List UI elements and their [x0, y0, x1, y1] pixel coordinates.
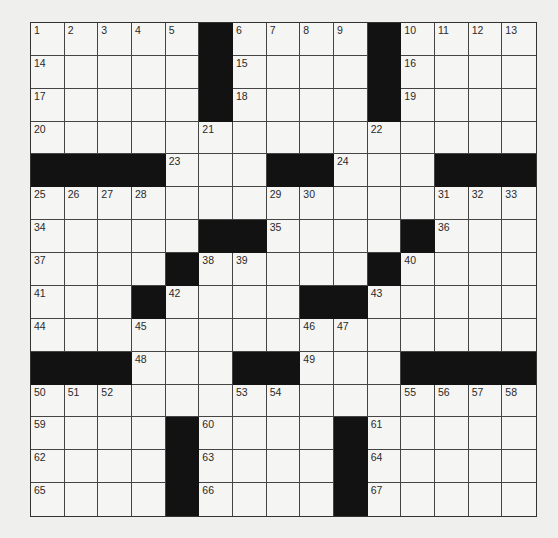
- grid-cell-r12c11[interactable]: [401, 417, 435, 450]
- grid-cell-r9c12[interactable]: [435, 319, 469, 352]
- grid-cell-r7c12[interactable]: [435, 253, 469, 286]
- grid-cell-r7c7[interactable]: [267, 253, 301, 286]
- grid-cell-r8c4[interactable]: 42: [166, 286, 200, 319]
- grid-cell-r14c2[interactable]: [98, 483, 132, 516]
- grid-cell-r6c3[interactable]: [132, 220, 166, 253]
- grid-cell-r0c7[interactable]: 7: [267, 23, 301, 56]
- grid-cell-r9c4[interactable]: [166, 319, 200, 352]
- grid-cell-r5c5[interactable]: [199, 187, 233, 220]
- grid-cell-r1c7[interactable]: [267, 56, 301, 89]
- grid-cell-r1c6[interactable]: 15: [233, 56, 267, 89]
- grid-cell-r13c1[interactable]: [65, 450, 99, 483]
- grid-cell-r1c4[interactable]: [166, 56, 200, 89]
- grid-cell-r13c7[interactable]: [267, 450, 301, 483]
- grid-cell-r0c6[interactable]: 6: [233, 23, 267, 56]
- grid-cell-r13c2[interactable]: [98, 450, 132, 483]
- grid-cell-r1c11[interactable]: 16: [401, 56, 435, 89]
- grid-cell-r7c0[interactable]: 37: [31, 253, 65, 286]
- grid-cell-r14c1[interactable]: [65, 483, 99, 516]
- grid-cell-r14c5[interactable]: 66: [199, 483, 233, 516]
- grid-cell-r13c13[interactable]: [469, 450, 503, 483]
- grid-cell-r12c12[interactable]: [435, 417, 469, 450]
- grid-cell-r3c12[interactable]: [435, 122, 469, 155]
- grid-cell-r13c12[interactable]: [435, 450, 469, 483]
- grid-cell-r6c7[interactable]: 35: [267, 220, 301, 253]
- grid-cell-r0c1[interactable]: 2: [65, 23, 99, 56]
- grid-cell-r13c3[interactable]: [132, 450, 166, 483]
- grid-cell-r1c2[interactable]: [98, 56, 132, 89]
- grid-cell-r9c8[interactable]: 46: [300, 319, 334, 352]
- grid-cell-r1c13[interactable]: [469, 56, 503, 89]
- grid-cell-r9c7[interactable]: [267, 319, 301, 352]
- grid-cell-r12c0[interactable]: 59: [31, 417, 65, 450]
- grid-cell-r0c4[interactable]: 5: [166, 23, 200, 56]
- grid-cell-r14c8[interactable]: [300, 483, 334, 516]
- grid-cell-r7c9[interactable]: [334, 253, 368, 286]
- grid-cell-r14c7[interactable]: [267, 483, 301, 516]
- grid-cell-r0c12[interactable]: 11: [435, 23, 469, 56]
- grid-cell-r10c3[interactable]: 48: [132, 352, 166, 385]
- grid-cell-r3c10[interactable]: 22: [368, 122, 402, 155]
- grid-cell-r6c1[interactable]: [65, 220, 99, 253]
- grid-cell-r14c0[interactable]: 65: [31, 483, 65, 516]
- grid-cell-r0c2[interactable]: 3: [98, 23, 132, 56]
- grid-cell-r0c3[interactable]: 4: [132, 23, 166, 56]
- grid-cell-r2c14[interactable]: [502, 89, 536, 122]
- grid-cell-r2c8[interactable]: [300, 89, 334, 122]
- grid-cell-r11c14[interactable]: 58: [502, 385, 536, 418]
- grid-cell-r5c14[interactable]: 33: [502, 187, 536, 220]
- grid-cell-r7c13[interactable]: [469, 253, 503, 286]
- grid-cell-r14c3[interactable]: [132, 483, 166, 516]
- grid-cell-r12c7[interactable]: [267, 417, 301, 450]
- grid-cell-r8c11[interactable]: [401, 286, 435, 319]
- grid-cell-r11c11[interactable]: 55: [401, 385, 435, 418]
- grid-cell-r1c14[interactable]: [502, 56, 536, 89]
- grid-cell-r13c11[interactable]: [401, 450, 435, 483]
- grid-cell-r12c10[interactable]: 61: [368, 417, 402, 450]
- grid-cell-r1c8[interactable]: [300, 56, 334, 89]
- grid-cell-r11c10[interactable]: [368, 385, 402, 418]
- grid-cell-r5c6[interactable]: [233, 187, 267, 220]
- grid-cell-r6c0[interactable]: 34: [31, 220, 65, 253]
- grid-cell-r5c8[interactable]: 30: [300, 187, 334, 220]
- grid-cell-r7c6[interactable]: 39: [233, 253, 267, 286]
- grid-cell-r11c13[interactable]: 57: [469, 385, 503, 418]
- grid-cell-r11c4[interactable]: [166, 385, 200, 418]
- grid-cell-r10c4[interactable]: [166, 352, 200, 385]
- grid-cell-r2c3[interactable]: [132, 89, 166, 122]
- grid-cell-r14c6[interactable]: [233, 483, 267, 516]
- grid-cell-r4c4[interactable]: 23: [166, 154, 200, 187]
- grid-cell-r0c11[interactable]: 10: [401, 23, 435, 56]
- grid-cell-r10c5[interactable]: [199, 352, 233, 385]
- grid-cell-r8c10[interactable]: 43: [368, 286, 402, 319]
- grid-cell-r3c5[interactable]: 21: [199, 122, 233, 155]
- grid-cell-r8c0[interactable]: 41: [31, 286, 65, 319]
- grid-cell-r3c3[interactable]: [132, 122, 166, 155]
- grid-cell-r2c2[interactable]: [98, 89, 132, 122]
- grid-cell-r14c13[interactable]: [469, 483, 503, 516]
- grid-cell-r6c12[interactable]: 36: [435, 220, 469, 253]
- grid-cell-r0c0[interactable]: 1: [31, 23, 65, 56]
- grid-cell-r5c9[interactable]: [334, 187, 368, 220]
- grid-cell-r1c9[interactable]: [334, 56, 368, 89]
- grid-cell-r3c2[interactable]: [98, 122, 132, 155]
- grid-cell-r5c12[interactable]: 31: [435, 187, 469, 220]
- grid-cell-r6c2[interactable]: [98, 220, 132, 253]
- grid-cell-r9c14[interactable]: [502, 319, 536, 352]
- grid-cell-r3c0[interactable]: 20: [31, 122, 65, 155]
- grid-cell-r11c5[interactable]: [199, 385, 233, 418]
- grid-cell-r7c11[interactable]: 40: [401, 253, 435, 286]
- grid-cell-r10c9[interactable]: [334, 352, 368, 385]
- grid-cell-r14c14[interactable]: [502, 483, 536, 516]
- grid-cell-r5c7[interactable]: 29: [267, 187, 301, 220]
- grid-cell-r4c6[interactable]: [233, 154, 267, 187]
- grid-cell-r2c12[interactable]: [435, 89, 469, 122]
- grid-cell-r12c1[interactable]: [65, 417, 99, 450]
- grid-cell-r3c6[interactable]: [233, 122, 267, 155]
- grid-cell-r10c8[interactable]: 49: [300, 352, 334, 385]
- grid-cell-r8c14[interactable]: [502, 286, 536, 319]
- grid-cell-r13c6[interactable]: [233, 450, 267, 483]
- grid-cell-r13c5[interactable]: 63: [199, 450, 233, 483]
- grid-cell-r9c13[interactable]: [469, 319, 503, 352]
- grid-cell-r13c0[interactable]: 62: [31, 450, 65, 483]
